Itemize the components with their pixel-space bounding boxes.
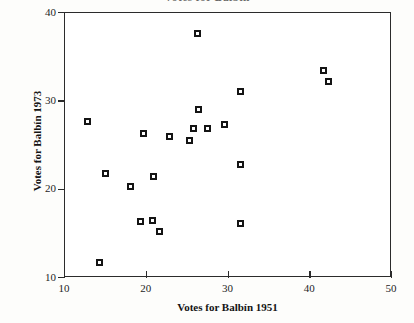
data-point <box>320 67 327 74</box>
data-point <box>140 130 147 137</box>
data-point <box>237 88 244 95</box>
x-tick-label: 10 <box>44 283 84 294</box>
y-axis-title: Votes for Balbín 1973 <box>31 41 43 241</box>
data-point <box>156 228 163 235</box>
data-point <box>84 118 91 125</box>
y-tick-label: 10 <box>16 272 56 283</box>
data-point <box>237 161 244 168</box>
data-point <box>195 106 202 113</box>
data-point <box>127 183 134 190</box>
data-point <box>149 217 156 224</box>
x-tick-label: 20 <box>126 283 166 294</box>
data-point <box>190 125 197 132</box>
data-point <box>137 218 144 225</box>
x-tick-label: 40 <box>289 283 329 294</box>
data-point <box>166 133 173 140</box>
chart-title: Votes for Balbín <box>0 0 414 5</box>
plot-data-area <box>64 12 391 277</box>
y-tick-label: 40 <box>16 7 56 18</box>
data-point <box>96 259 103 266</box>
data-point <box>186 137 193 144</box>
scatter-plot-figure: Votes for Balbín 10203040 1020304050 Vot… <box>0 0 414 323</box>
data-point <box>102 170 109 177</box>
x-tick-mark <box>391 271 392 278</box>
data-point <box>325 78 332 85</box>
x-tick-label: 50 <box>371 283 411 294</box>
data-point <box>221 121 228 128</box>
data-point <box>237 220 244 227</box>
x-axis-title: Votes for Balbín 1951 <box>64 301 391 313</box>
x-tick-label: 30 <box>208 283 248 294</box>
data-point <box>150 173 157 180</box>
data-point <box>204 125 211 132</box>
data-point <box>194 30 201 37</box>
